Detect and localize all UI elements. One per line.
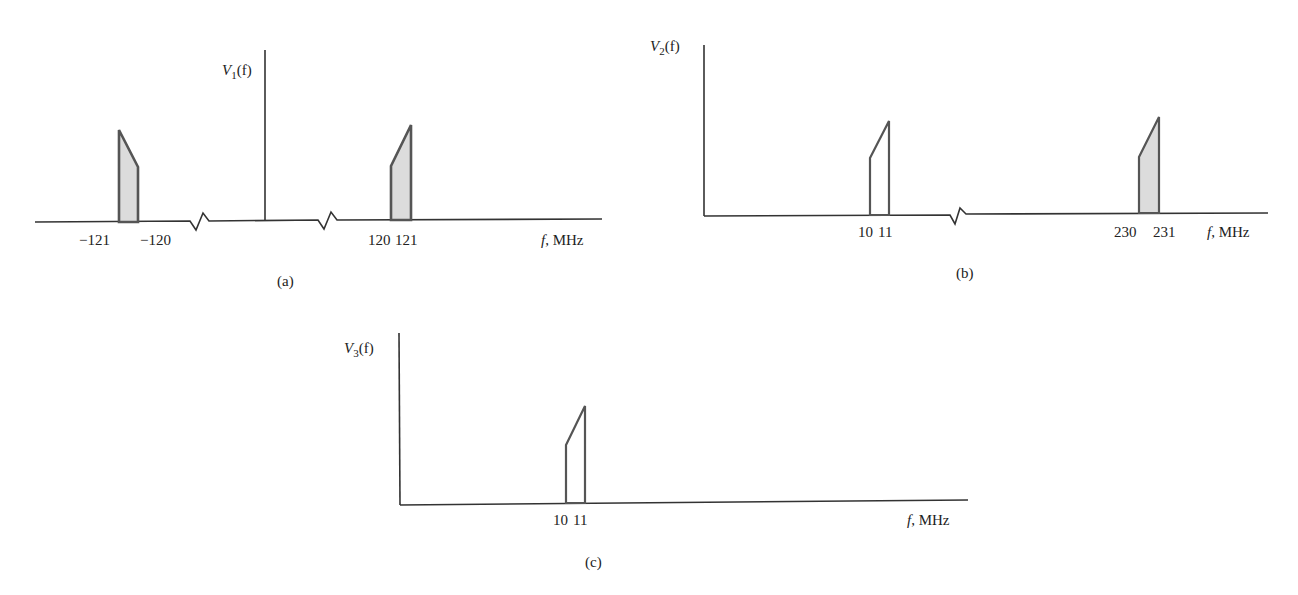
- spectrum-figure: V1(f) −121 −120 120 121 f, MHz (a) V2(f)…: [0, 0, 1298, 595]
- panel-b-tick-label: 10: [858, 224, 873, 240]
- panel-a-band-negative: [119, 130, 138, 222]
- panel-a-tick-label: −121: [79, 232, 110, 248]
- panel-c-freq-axis: [400, 500, 968, 505]
- panel-a-xlabel: f, MHz: [541, 232, 584, 248]
- panel-b: V2(f) 10 11 230 231 f, MHz (b): [650, 38, 1268, 282]
- panel-c-tick-label: 11: [573, 512, 587, 528]
- panel-c-ylabel: V3(f): [344, 340, 374, 359]
- panel-c-caption: (c): [585, 554, 602, 571]
- panel-b-caption: (b): [956, 265, 974, 282]
- panel-a: V1(f) −121 −120 120 121 f, MHz (a): [35, 50, 602, 290]
- panel-a-tick-label: 120: [368, 232, 391, 248]
- panel-a-tick-label: −120: [140, 232, 171, 248]
- panel-a-tick-label: 121: [395, 232, 418, 248]
- panel-b-tick-label: 231: [1153, 224, 1176, 240]
- panel-b-ylabel: V2(f): [650, 38, 680, 57]
- panel-b-band-10-11: [870, 121, 889, 215]
- panel-b-tick-label: 11: [878, 224, 892, 240]
- panel-c-xlabel: f, MHz: [907, 512, 950, 528]
- panel-c-band-10-11: [566, 406, 585, 503]
- panel-c: V3(f) 10 11 f, MHz (c): [344, 333, 968, 571]
- panel-c-amplitude-axis: [399, 333, 400, 505]
- panel-b-tick-label: 230: [1114, 224, 1137, 240]
- panel-a-ylabel: V1(f): [222, 62, 252, 81]
- panel-b-xlabel: f, MHz: [1207, 224, 1250, 240]
- panel-a-caption: (a): [277, 273, 294, 290]
- panel-b-freq-axis: [704, 208, 1268, 224]
- panel-b-band-230-231: [1139, 117, 1159, 213]
- panel-c-tick-label: 10: [553, 512, 568, 528]
- panel-a-band-positive: [391, 125, 411, 220]
